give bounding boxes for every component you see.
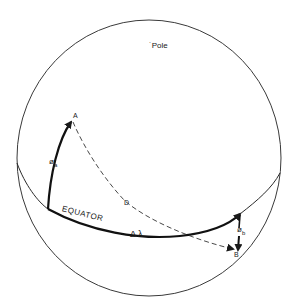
- phi-b-arrow: [238, 236, 239, 250]
- phi-b-label: øb: [237, 226, 245, 236]
- pole-label: ˙Pole: [149, 42, 168, 50]
- point-a-label: A: [73, 112, 78, 119]
- equator-line: [17, 163, 48, 209]
- point-b-label: B: [234, 251, 239, 258]
- equator-line-right: [240, 173, 280, 214]
- phi-a-label: øa: [49, 158, 57, 168]
- delta-lambda-label: Δ λ: [130, 230, 143, 239]
- distance-label: D: [124, 199, 129, 206]
- phi-a-subscript: a: [54, 162, 57, 168]
- sphere-diagram: [0, 0, 296, 308]
- phi-b-subscript: b: [242, 230, 245, 236]
